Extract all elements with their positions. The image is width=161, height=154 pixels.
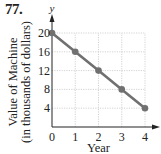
x-axis-title: Year xyxy=(87,141,111,154)
x-tick-label: 1 xyxy=(72,130,78,144)
grid-lines xyxy=(52,33,145,127)
y-axis-title-line: (in thousands of dollars) xyxy=(19,21,33,143)
x-tick-label: 3 xyxy=(119,130,125,144)
data-point xyxy=(142,105,149,112)
y-tick-label: 20 xyxy=(38,26,50,40)
y-axis-variable: y xyxy=(49,2,55,14)
y-tick-label: 16 xyxy=(38,45,50,59)
data-point xyxy=(95,67,102,74)
y-tick-label: 12 xyxy=(38,64,50,78)
y-axis-title-line: Value of Machine xyxy=(6,37,20,126)
x-axis-arrow-icon xyxy=(152,125,160,130)
y-tick-label: 4 xyxy=(44,101,50,115)
data-point xyxy=(72,49,79,56)
tick-labels: 0123448121620 xyxy=(38,26,148,144)
x-tick-label: 0 xyxy=(49,130,55,144)
x-tick-label: 4 xyxy=(142,130,148,144)
y-tick-label: 8 xyxy=(44,82,50,96)
axes xyxy=(50,14,161,130)
line-chart: 0123448121620 YearyValue of Machine(in t… xyxy=(0,0,161,154)
data-point xyxy=(118,86,125,93)
y-axis-arrow-icon xyxy=(50,14,55,22)
